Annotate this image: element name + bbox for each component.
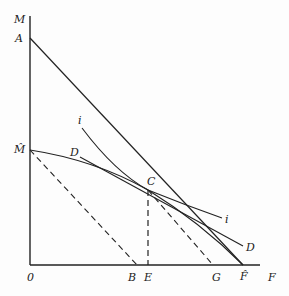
curve-d-label-top: D bbox=[70, 147, 79, 158]
dashed-line-c-g bbox=[148, 190, 213, 265]
point-a-label: A bbox=[15, 33, 23, 44]
point-c-label: C bbox=[147, 176, 155, 187]
point-e-label: E bbox=[144, 272, 152, 283]
point-mhat-label: M̂ bbox=[14, 144, 25, 155]
curve-i-label-bottom: i bbox=[225, 214, 229, 225]
point-g-label: G bbox=[212, 272, 221, 283]
curve-d-label-bottom: D bbox=[246, 242, 255, 253]
curve-i-label-top: i bbox=[78, 115, 82, 126]
diagram-canvas: M A M̂ i D C i D 0 B E G F̂ F bbox=[0, 0, 289, 296]
indifference-curve bbox=[82, 128, 222, 218]
transformation-curve bbox=[30, 150, 243, 265]
dashed-line-mhat-b bbox=[30, 150, 137, 265]
tangent-line-dd bbox=[80, 157, 243, 246]
x-axis-label: F bbox=[268, 272, 276, 283]
origin-label: 0 bbox=[27, 272, 34, 283]
point-b-label: B bbox=[128, 272, 136, 283]
budget-line-a-fhat bbox=[30, 38, 243, 265]
point-fhat-label: F̂ bbox=[240, 271, 248, 282]
y-axis-label: M bbox=[14, 14, 25, 25]
